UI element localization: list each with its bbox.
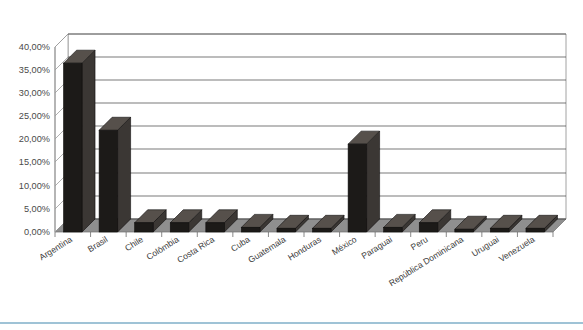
bar-column — [64, 50, 95, 232]
bar-front-face — [241, 227, 259, 232]
bar-chart-3d: 40,00% 35,00% 30,00% 25,00% 20,00% 15,00… — [0, 0, 583, 330]
bar-column — [99, 117, 130, 232]
bar-front-face — [313, 228, 331, 232]
bar-front-face — [348, 144, 366, 232]
bar-front-face — [490, 228, 508, 232]
bar-side-face — [118, 117, 131, 232]
bottom-accent-rule — [0, 322, 583, 324]
x-axis-category-label: Peru — [409, 234, 430, 252]
bar-front-face — [277, 228, 295, 232]
bar-front-face — [64, 63, 82, 232]
x-axis-labels: ArgentinaBrasilChileColômbiaCosta RicaCu… — [37, 234, 536, 288]
ytick-label: 25,00% — [19, 111, 50, 121]
bar-front-face — [99, 130, 117, 232]
bar-front-face — [206, 223, 224, 232]
plot-area — [55, 34, 566, 232]
bar-front-face — [526, 228, 544, 232]
y-axis-ticks: 40,00% 35,00% 30,00% 25,00% 20,00% 15,00… — [19, 42, 50, 237]
plot-back-wall — [68, 34, 566, 219]
bar-front-face — [384, 227, 402, 232]
x-axis-category-label: Argentina — [37, 234, 74, 262]
chart-figure: 40,00% 35,00% 30,00% 25,00% 20,00% 15,00… — [0, 0, 583, 330]
ytick-label: 40,00% — [19, 42, 50, 52]
bar-front-face — [170, 223, 188, 232]
ytick-label: 0,00% — [24, 227, 50, 237]
bar-front-face — [135, 223, 153, 232]
ytick-label: 30,00% — [19, 88, 50, 98]
plot-floor — [55, 219, 566, 232]
x-axis-category-label: Paraguai — [360, 234, 395, 261]
ytick-label: 15,00% — [19, 157, 50, 167]
x-axis-ticks — [55, 232, 553, 237]
x-axis-category-label: Brasil — [86, 234, 110, 254]
bar-side-face — [82, 50, 95, 232]
ytick-label: 20,00% — [19, 134, 50, 144]
bar-column — [348, 131, 379, 232]
ytick-label: 10,00% — [19, 181, 50, 191]
x-axis-category-label: Costa Rica — [175, 234, 216, 265]
bar-front-face — [419, 223, 437, 232]
x-axis-category-label: Cuba — [229, 234, 252, 253]
bar-front-face — [455, 229, 473, 232]
x-axis-category-label: México — [330, 234, 359, 257]
ytick-label: 5,00% — [24, 204, 50, 214]
x-axis-category-label: Venezuela — [497, 234, 537, 264]
ytick-label: 35,00% — [19, 65, 50, 75]
x-axis-category-label: Guatemala — [246, 234, 287, 265]
bar-side-face — [367, 131, 380, 232]
x-axis-category-label: Honduras — [286, 234, 323, 262]
